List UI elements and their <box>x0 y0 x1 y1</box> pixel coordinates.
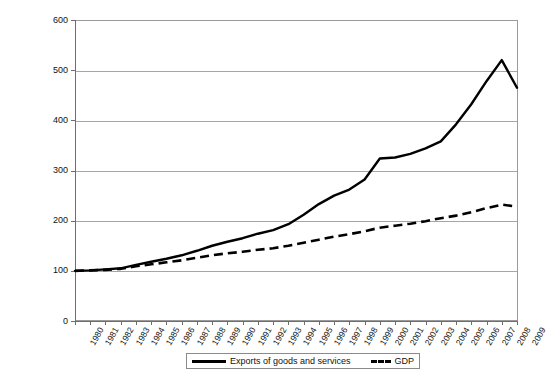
legend-label-gdp: GDP <box>395 357 415 366</box>
y-tick-label-300: 300 <box>0 166 78 175</box>
x-tick-1988 <box>197 321 198 325</box>
x-tick-label-1985: 1985 <box>165 326 182 347</box>
x-tick-label-1988: 1988 <box>210 326 227 347</box>
x-tick-2008 <box>502 321 503 325</box>
x-tick-2002 <box>410 321 411 325</box>
x-tick-1981 <box>90 321 91 325</box>
x-tick-2007 <box>487 321 488 325</box>
legend-entry-exports: Exports of goods and services <box>192 357 351 366</box>
series-line-exports <box>75 60 517 271</box>
legend-swatch-dashed-icon <box>371 360 391 363</box>
y-tick-label-400: 400 <box>0 116 78 125</box>
x-tick-label-1997: 1997 <box>348 326 365 347</box>
x-tick-2004 <box>441 321 442 325</box>
x-tick-1996 <box>319 321 320 325</box>
x-tick-1980 <box>75 321 76 325</box>
x-tick-label-1987: 1987 <box>195 326 212 347</box>
x-tick-2001 <box>395 321 396 325</box>
x-tick-1991 <box>243 321 244 325</box>
x-tick-label-2000: 2000 <box>393 326 410 347</box>
x-tick-label-1980: 1980 <box>88 326 105 347</box>
x-tick-1998 <box>349 321 350 325</box>
x-tick-label-2005: 2005 <box>469 326 486 347</box>
x-tick-label-2001: 2001 <box>409 326 426 347</box>
x-tick-label-1981: 1981 <box>104 326 121 347</box>
y-tick-label-500: 500 <box>0 66 78 75</box>
x-tick-1994 <box>288 321 289 325</box>
legend-entry-gdp: GDP <box>371 357 415 366</box>
x-tick-label-1998: 1998 <box>363 326 380 347</box>
x-tick-1993 <box>273 321 274 325</box>
x-tick-label-1989: 1989 <box>226 326 243 347</box>
x-tick-label-1982: 1982 <box>119 326 136 347</box>
series-line-gdp <box>75 205 517 271</box>
x-tick-label-2004: 2004 <box>454 326 471 347</box>
x-tick-label-2008: 2008 <box>515 326 532 347</box>
x-tick-1997 <box>334 321 335 325</box>
x-tick-label-1990: 1990 <box>241 326 258 347</box>
legend-label-exports: Exports of goods and services <box>230 357 351 366</box>
series-container <box>75 20 518 321</box>
x-tick-1986 <box>166 321 167 325</box>
x-tick-2005 <box>456 321 457 325</box>
x-tick-label-1984: 1984 <box>149 326 166 347</box>
x-tick-2003 <box>426 321 427 325</box>
x-tick-label-1983: 1983 <box>134 326 151 347</box>
x-tick-label-1999: 1999 <box>378 326 395 347</box>
x-tick-1995 <box>304 321 305 325</box>
x-tick-label-1986: 1986 <box>180 326 197 347</box>
y-tick-label-0: 0 <box>0 317 78 326</box>
x-tick-1984 <box>136 321 137 325</box>
y-tick-label-600: 600 <box>0 16 78 25</box>
x-tick-label-1996: 1996 <box>332 326 349 347</box>
x-tick-label-1991: 1991 <box>256 326 273 347</box>
x-tick-2000 <box>380 321 381 325</box>
x-tick-label-2003: 2003 <box>439 326 456 347</box>
x-tick-label-1994: 1994 <box>302 326 319 347</box>
y-tick-label-100: 100 <box>0 266 78 275</box>
x-tick-label-1993: 1993 <box>287 326 304 347</box>
x-axis <box>75 321 518 322</box>
x-tick-1983 <box>121 321 122 325</box>
legend: Exports of goods and services GDP <box>186 353 420 369</box>
x-tick-1982 <box>105 321 106 325</box>
x-tick-1987 <box>182 321 183 325</box>
x-tick-2006 <box>471 321 472 325</box>
x-tick-label-2009: 2009 <box>530 326 547 347</box>
x-tick-1992 <box>258 321 259 325</box>
x-tick-label-2006: 2006 <box>485 326 502 347</box>
legend-swatch-solid-icon <box>192 360 226 363</box>
x-tick-1999 <box>365 321 366 325</box>
y-tick-label-200: 200 <box>0 216 78 225</box>
x-tick-1990 <box>227 321 228 325</box>
x-tick-2009 <box>517 321 518 325</box>
x-tick-label-2002: 2002 <box>424 326 441 347</box>
x-tick-1989 <box>212 321 213 325</box>
x-tick-label-1992: 1992 <box>271 326 288 347</box>
x-tick-1985 <box>151 321 152 325</box>
x-tick-label-2007: 2007 <box>500 326 517 347</box>
x-tick-label-1995: 1995 <box>317 326 334 347</box>
